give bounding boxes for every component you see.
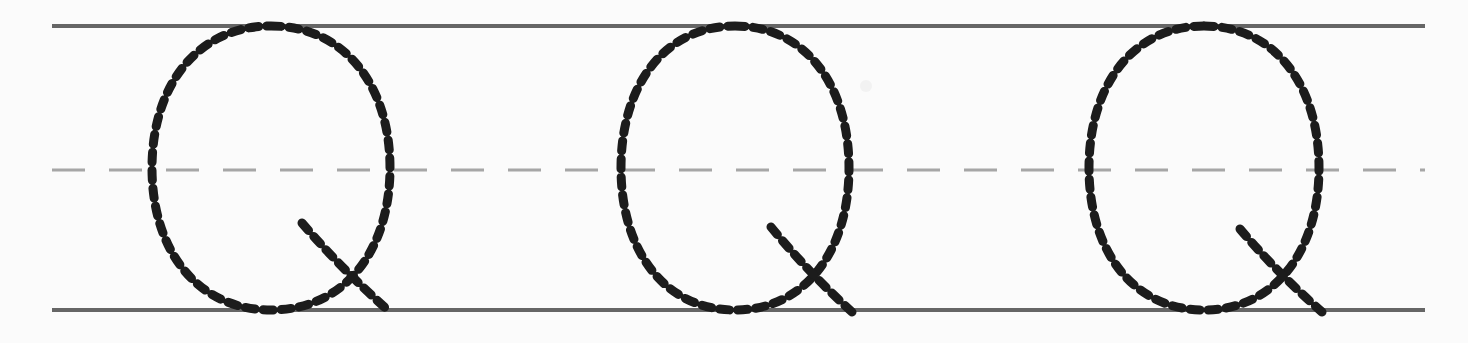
paper-artifacts-layer bbox=[860, 80, 872, 92]
paper-speck bbox=[860, 80, 872, 92]
worksheet-canvas bbox=[0, 0, 1468, 343]
handwriting-worksheet bbox=[0, 0, 1468, 343]
page-background bbox=[0, 0, 1468, 343]
